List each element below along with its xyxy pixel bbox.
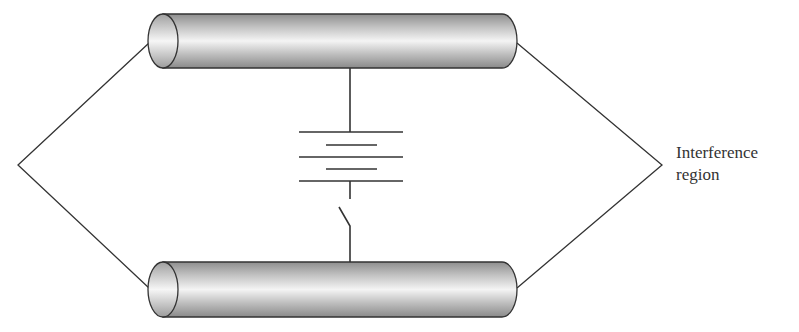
bottom-conductor xyxy=(148,262,517,317)
battery xyxy=(299,68,403,199)
label-line-2: region xyxy=(676,164,758,186)
right-wires xyxy=(517,43,662,288)
top-conductor xyxy=(148,14,517,68)
switch xyxy=(339,207,350,262)
interference-lines xyxy=(18,43,662,288)
label-line-1: Interference xyxy=(676,142,758,164)
interference-region-label: Interference region xyxy=(676,142,758,186)
diagram-canvas: Interference region xyxy=(0,0,799,332)
left-wires xyxy=(18,43,149,288)
